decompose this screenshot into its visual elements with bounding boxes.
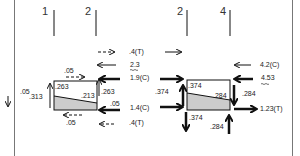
left-shear-top: .05 <box>64 67 74 74</box>
left-side-lower: .313 <box>29 93 43 100</box>
left-force-2: 1.9(C) <box>130 74 149 81</box>
joint-label-4: 4 <box>220 6 226 17</box>
right-bottom-left: .374 <box>189 114 203 121</box>
left-force-1: 2.3 <box>130 61 140 68</box>
left-right-side-upper: .263 <box>101 88 115 95</box>
right-force-2: 1.23(T) <box>260 105 283 112</box>
joint-label-2b: 2 <box>177 6 183 17</box>
right-bottom-right: .284 <box>210 123 224 130</box>
left-stress-mid-right: .213 <box>81 92 95 99</box>
right-left-side: .374 <box>155 88 169 95</box>
left-force-0: .4(T) <box>129 48 144 55</box>
right-stress-top-left: .374 <box>188 82 202 89</box>
right-force-1: 4.53 <box>261 74 275 81</box>
left-right-side-lower: .05 <box>110 100 120 107</box>
diagram-graphics <box>0 0 300 156</box>
left-shear-bottom: .05 <box>66 119 76 126</box>
left-force-3: 1.4(C) <box>130 104 149 111</box>
right-force-0: 4.2(C) <box>260 61 279 68</box>
right-stress-mid-right: .284 <box>213 92 227 99</box>
left-force-4: .4(T) <box>129 119 144 126</box>
left-stress-top-left: .263 <box>55 83 69 90</box>
joint-lines <box>54 10 230 36</box>
joint-label-1: 1 <box>42 6 48 17</box>
right-right-side: .284 <box>242 90 256 97</box>
joint-label-2a: 2 <box>85 6 91 17</box>
